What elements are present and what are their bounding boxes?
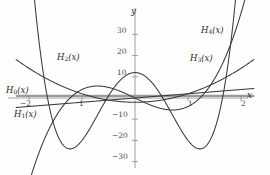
curve-label-H1-arg: (x) (25, 109, 36, 119)
curve-label-H1: H1(x) (14, 109, 37, 119)
x-tick-label-1: 1 (188, 99, 193, 108)
y-tick-label-20: 20 (117, 47, 127, 56)
x-tick-label-neg2: −2 (20, 99, 31, 108)
plot-canvas (0, 0, 270, 175)
curve-label-H2-arg: (x) (68, 52, 79, 62)
y-tick-label-neg20: −20 (112, 131, 128, 140)
curve-label-H3-arg: (x) (201, 53, 212, 63)
hermite-polynomials-figure: x y −2 1 1 2 30 20 10 −10 −20 −30 H0(x) … (0, 0, 270, 175)
y-tick-label-30: 30 (117, 26, 127, 35)
x-axis-label: x (247, 90, 252, 100)
y-tick-label-10: 10 (117, 68, 127, 77)
curve-label-H3: H3(x) (190, 53, 213, 63)
curve-label-H4-arg: (x) (212, 25, 223, 35)
curve-label-H0-arg: (x) (17, 85, 28, 95)
curve-label-H2: H2(x) (57, 52, 80, 62)
x-tick-label-neg1: 1 (79, 99, 84, 108)
curve-label-H4: H4(x) (201, 25, 224, 35)
y-tick-label-neg10: −10 (112, 110, 128, 119)
curve-label-H0: H0(x) (6, 85, 29, 95)
y-tick-label-neg30: −30 (112, 152, 128, 161)
x-tick-label-2: 2 (241, 99, 246, 108)
y-axis-label: y (131, 6, 136, 16)
